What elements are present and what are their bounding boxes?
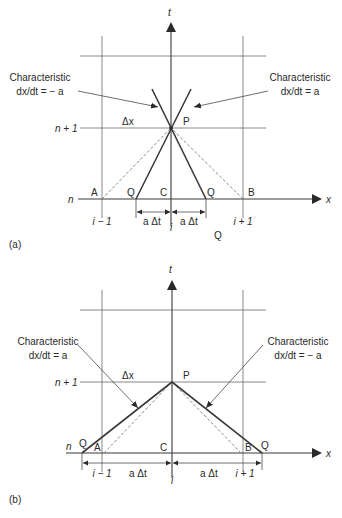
figure-b: t x n n + 1 Characteristic dx/dt = a Cha… [9,264,332,505]
point-B-label: B [248,187,255,198]
x-axis-label: x [325,448,332,459]
t-axis-label: t [168,7,172,18]
point-P-label: P [183,370,190,381]
col-label-i-plus-1: i + 1 [235,468,254,479]
t-axis-arrow-icon [166,22,176,32]
t-axis-label: t [169,264,173,275]
characteristic-negative [152,89,206,199]
annotation-left-line2: dx/dt = a [29,350,68,361]
annotation-right-line1: Characteristic [269,72,330,83]
row-label-n-plus-1: n + 1 [55,123,78,134]
point-Q-right-label: Q [207,187,215,198]
delta-x-label: Δx [122,116,134,127]
point-Q-left-label: Q [127,187,135,198]
point-B-label: B [245,442,252,453]
dim-label-left: a Δt [143,216,161,227]
col-label-i-minus-1: i − 1 [92,468,111,479]
x-axis-arrow-icon [312,448,322,458]
annotation-right-line2: dx/dt = − a [274,350,322,361]
delta-x-label: Δx [122,370,134,381]
col-label-i: i [171,475,174,486]
leader-right [206,345,263,408]
characteristic-positive [136,89,191,199]
figure-a: t x n n + 1 Characteristic dx/dt = − a C… [9,7,332,250]
point-P-marker [169,126,173,130]
annotation-left-line1: Characteristic [9,72,70,83]
x-axis-label: x [325,194,332,205]
leader-left [78,91,158,107]
point-P-label: P [183,116,190,127]
point-C-label: C [160,442,167,453]
annotation-right-line2: dx/dt = a [281,86,320,97]
point-C-label: C [160,187,167,198]
col-label-i: i [170,222,173,233]
caption-a: (a) [9,239,21,250]
dashed-line-B-P [174,384,241,453]
dim-label-right: a Δt [200,468,218,479]
point-Q-left-label: Q [79,438,87,449]
dim-label-left: a Δt [129,468,147,479]
annotation-left-line2: dx/dt = − a [16,86,64,97]
t-axis-arrow-icon [167,280,177,290]
caption-b: (b) [9,494,21,505]
annotation-right-line1: Characteristic [267,336,328,347]
annotation-left-line1: Characteristic [17,336,78,347]
col-label-i-minus-1: i − 1 [92,216,111,227]
row-label-n: n [66,441,72,452]
point-Q-below-label: Q [214,230,222,241]
characteristics-diagram: t x n n + 1 Characteristic dx/dt = − a C… [0,0,342,518]
dim-label-right: a Δt [180,216,198,227]
x-axis-arrow-icon [312,194,322,204]
point-A-label: A [94,442,101,453]
row-label-n: n [68,194,74,205]
row-label-n-plus-1: n + 1 [55,377,78,388]
col-label-i-plus-1: i + 1 [233,216,252,227]
leader-right [194,91,268,107]
point-A-label: A [91,187,98,198]
point-Q-right-label: Q [261,440,269,451]
